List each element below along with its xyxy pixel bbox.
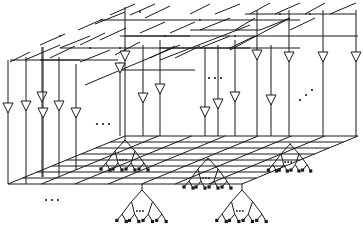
- tree: [115, 184, 168, 223]
- buffer-triangle-icon: [200, 107, 210, 117]
- ellipsis-dot: [119, 159, 121, 161]
- depth-segment: [130, 4, 155, 15]
- tree-branch: [132, 190, 143, 202]
- tree: [182, 158, 232, 190]
- depth-segment: [145, 6, 170, 18]
- buffer-triangle-icon: [71, 108, 81, 118]
- leaf-node-icon: [265, 220, 268, 223]
- ellipsis-dot: [220, 77, 222, 79]
- ellipsis-dot: [205, 177, 207, 179]
- tree-branch: [232, 190, 243, 202]
- buffer-triangle-icon: [37, 92, 47, 102]
- ellipsis-dot: [287, 161, 289, 163]
- leaf-node-icon: [120, 168, 123, 171]
- depth-segment: [95, 12, 125, 24]
- junction-dot: [164, 35, 166, 37]
- buffer-triangle-icon: [21, 101, 31, 111]
- leaf-node-icon: [182, 185, 185, 188]
- ellipsis-dot: [125, 159, 127, 161]
- tree-branch: [153, 202, 162, 215]
- leaf-node-icon: [255, 219, 258, 222]
- mesh-network-diagram: [0, 0, 363, 233]
- leaf-node-icon: [137, 167, 140, 170]
- clock-trees: [99, 136, 312, 223]
- leaf-node-icon: [115, 219, 118, 222]
- leaf-node-icon: [220, 185, 223, 188]
- leaf-node-icon: [286, 169, 289, 172]
- tree-branch: [131, 151, 135, 163]
- ellipsis-dot: [242, 210, 244, 212]
- leaf-node-icon: [137, 220, 140, 223]
- leaf-node-icon: [128, 219, 131, 222]
- tree-branch: [132, 202, 135, 215]
- depth-segment: [140, 22, 165, 33]
- depth-segment: [250, 3, 270, 14]
- ellipsis-dot: [214, 77, 216, 79]
- ellipsis-dot: [139, 210, 141, 212]
- buffer-triangle-icon: [213, 99, 223, 109]
- tree-branch: [198, 169, 201, 181]
- depth-segment: [230, 36, 255, 48]
- leaf-node-icon: [133, 168, 136, 171]
- leaf-node-icon: [141, 219, 144, 222]
- tree-branch: [299, 154, 307, 165]
- leaf-node-icon: [165, 220, 168, 223]
- buffer-triangle-icon: [318, 52, 328, 62]
- buffer-triangle-icon: [351, 52, 361, 62]
- ellipsis-dot: [202, 177, 204, 179]
- leaf-node-icon: [225, 220, 228, 223]
- ellipsis-dot: [136, 210, 138, 212]
- junction-dot: [234, 35, 236, 37]
- ellipsis-dot: [108, 123, 110, 125]
- tree-branch: [214, 169, 218, 181]
- ellipsis-dot: [51, 199, 53, 201]
- ellipsis-dot: [122, 159, 124, 161]
- leaf-node-icon: [151, 220, 154, 223]
- ellipsis-dot: [236, 210, 238, 212]
- leaf-node-icon: [267, 169, 270, 172]
- ellipsis-dot: [57, 199, 59, 201]
- tree-branch: [281, 154, 284, 165]
- ellipsis-dot: [284, 161, 286, 163]
- mesh-grid-plane: [8, 136, 358, 184]
- ellipsis-dot: [208, 77, 210, 79]
- leaf-node-icon: [191, 186, 194, 189]
- depth-segment: [200, 36, 230, 48]
- buffer-triangle-icon: [284, 52, 294, 62]
- ellipsis-dot: [290, 161, 292, 163]
- ellipsis-dot: [45, 199, 47, 201]
- depth-segment: [230, 18, 290, 50]
- leaf-node-icon: [237, 220, 240, 223]
- tree-branch: [135, 151, 144, 163]
- ellipsis-dot: [305, 94, 307, 96]
- depth-segment: [40, 34, 65, 45]
- tree-branch: [295, 154, 299, 165]
- buffer-triangle-icon: [3, 103, 13, 113]
- leaf-node-icon: [125, 220, 128, 223]
- junction-dot: [309, 13, 311, 15]
- leaf-node-icon: [111, 167, 114, 170]
- leaf-node-icon: [228, 219, 231, 222]
- buffer-triangle-icon: [252, 50, 262, 60]
- depth-segment: [78, 19, 103, 30]
- buffer-triangle-icon: [120, 51, 130, 61]
- leaf-node-icon: [146, 168, 149, 171]
- tree-branch: [248, 202, 252, 215]
- buffer-triangle-icon: [230, 92, 240, 102]
- junction-dot: [89, 47, 91, 49]
- junction-dot: [229, 47, 231, 49]
- tree-branch: [232, 202, 235, 215]
- tree: [215, 184, 268, 223]
- leaf-node-icon: [297, 169, 300, 172]
- depth-segment: [330, 3, 356, 14]
- ellipsis-dot: [102, 123, 104, 125]
- leaf-node-icon: [251, 220, 254, 223]
- buffer-triangle-icon: [266, 95, 276, 105]
- buffer-triangle-icon: [38, 108, 48, 118]
- junction-dot: [59, 35, 61, 37]
- tree-branch: [290, 144, 299, 154]
- leaf-node-icon: [203, 186, 206, 189]
- buffer-triangle-icon: [138, 93, 148, 103]
- tree-branch: [148, 202, 152, 215]
- junction-dot: [119, 47, 121, 49]
